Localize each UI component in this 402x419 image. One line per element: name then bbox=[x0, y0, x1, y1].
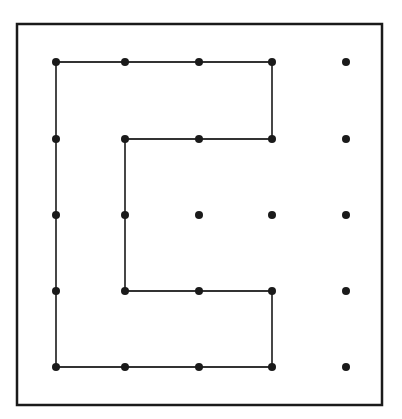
grid-dot bbox=[268, 211, 276, 219]
grid-dot bbox=[342, 211, 350, 219]
grid-dot bbox=[52, 363, 60, 371]
grid-dot bbox=[342, 58, 350, 66]
grid-dot bbox=[52, 135, 60, 143]
grid-dot bbox=[195, 363, 203, 371]
grid-dot bbox=[342, 363, 350, 371]
grid-dot bbox=[121, 287, 129, 295]
grid-dot bbox=[121, 363, 129, 371]
dot-grid-diagram bbox=[0, 0, 402, 419]
grid-dot bbox=[52, 211, 60, 219]
grid-dot bbox=[195, 211, 203, 219]
grid-dot bbox=[121, 58, 129, 66]
grid-dot bbox=[268, 287, 276, 295]
grid-dot bbox=[342, 287, 350, 295]
grid-dots bbox=[52, 58, 350, 371]
grid-dot bbox=[195, 58, 203, 66]
grid-dot bbox=[195, 135, 203, 143]
grid-dot bbox=[342, 135, 350, 143]
grid-dot bbox=[121, 135, 129, 143]
grid-dot bbox=[52, 287, 60, 295]
grid-dot bbox=[268, 58, 276, 66]
grid-dot bbox=[121, 211, 129, 219]
grid-dot bbox=[268, 135, 276, 143]
grid-dot bbox=[195, 287, 203, 295]
grid-dot bbox=[268, 363, 276, 371]
grid-dot bbox=[52, 58, 60, 66]
c-shaped-path bbox=[56, 62, 272, 367]
